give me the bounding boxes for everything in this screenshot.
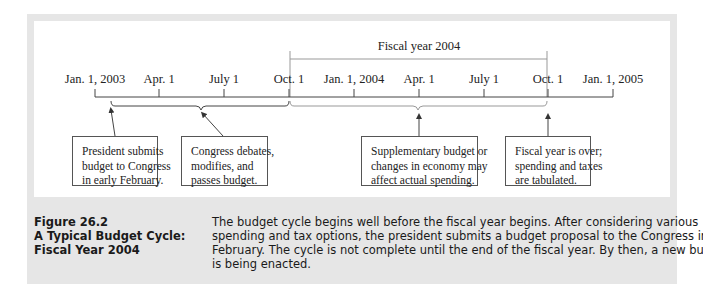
note-line: spending and taxes [515,159,584,174]
arrow-president [111,110,115,136]
note-line: modifies, and [191,159,261,174]
tick-label: Jan. 1, 2004 [324,72,385,86]
tick-label: Apr. 1 [143,72,174,86]
note-line: changes in economy may [371,159,471,174]
note-line: passes budget. [191,173,261,188]
figure-description: The budget cycle begins well before the … [212,215,672,271]
figure-title-line: Fiscal Year 2004 [34,243,214,257]
note-congress-debates: Congress debates, modifies, and passes b… [181,136,268,186]
tick-label: Oct. 1 [274,72,305,86]
note-line: President submits [82,144,151,159]
note-line: in early February. [82,173,151,188]
figure-title-line: A Typical Budget Cycle: [34,229,214,243]
brace-legislative [111,101,289,110]
timeline-ticks [95,89,613,97]
description-line: spending and tax options, the president … [212,229,672,243]
note-line: Congress debates, [191,144,261,159]
note-line: Supplementary budget or [371,144,471,159]
note-line: are tabulated. [515,173,584,188]
description-line: is being enacted. [212,257,672,271]
tick-label: Oct. 1 [533,72,564,86]
tick-label: July 1 [469,72,499,86]
tick-label: Jan. 1, 2005 [583,72,643,86]
figure-number: Figure 26.2 [34,215,214,229]
fiscal-year-label: Fiscal year 2004 [378,39,461,53]
note-supplementary-budget: Supplementary budget or changes in econo… [361,136,478,186]
note-line: Fiscal year is over; [515,144,584,159]
description-line: The budget cycle begins well before the … [212,215,672,229]
figure-caption-title: Figure 26.2 A Typical Budget Cycle: Fisc… [34,215,214,257]
note-line: affect actual spending. [371,173,471,188]
brace-fiscal-year [290,101,547,110]
note-line: budget to Congress [82,159,151,174]
description-line: February. The cycle is not complete unti… [212,243,672,257]
tick-label: July 1 [209,72,239,86]
tick-label: Apr. 1 [403,72,434,86]
tick-label: Jan. 1, 2003 [65,72,125,86]
arrow-congress [203,114,223,136]
note-fiscal-year-over: Fiscal year is over; spending and taxes … [505,136,591,186]
note-president-submits: President submits budget to Congress in … [72,136,158,186]
